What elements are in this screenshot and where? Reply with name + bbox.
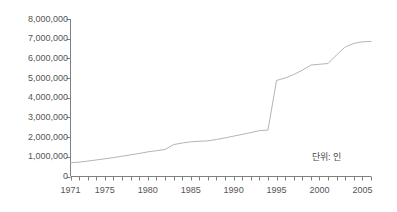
x-axis-tick-label: 1980 (128, 186, 168, 195)
x-axis-tick-label: 1975 (85, 186, 125, 195)
x-axis-tick-labels: 19711975198019851990199520002005 (0, 0, 397, 212)
x-axis-tick-label: 2000 (299, 186, 339, 195)
x-axis-tick-label: 2005 (342, 186, 382, 195)
unit-annotation: 단위: 인 (312, 152, 341, 163)
x-axis-tick-label: 1995 (257, 186, 297, 195)
x-axis-tick-label: 1985 (171, 186, 211, 195)
line-chart: 8,000,0007,000,0006,000,0005,000,0004,00… (0, 0, 397, 212)
x-axis-tick-label: 1990 (214, 186, 254, 195)
